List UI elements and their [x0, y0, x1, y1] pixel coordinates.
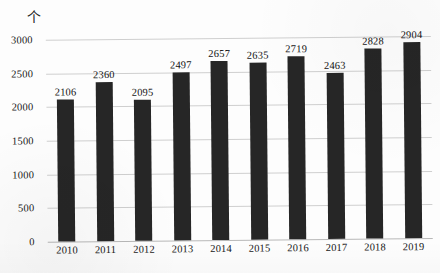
plot-area: 0500100015002000250030002106201023602011… — [46, 36, 433, 242]
x-axis-tick-label: 2010 — [56, 244, 78, 255]
x-axis-tick-label: 2011 — [95, 244, 117, 255]
bar-value-label: 2497 — [170, 59, 192, 70]
bar — [172, 72, 191, 240]
bar-group: 28282018 — [354, 36, 394, 238]
bar-group: 20952012 — [123, 39, 163, 241]
bar — [249, 62, 268, 240]
bar-value-label: 2828 — [362, 35, 384, 46]
y-axis-tick-label: 0 — [0, 236, 35, 247]
bar — [365, 48, 384, 239]
bar-value-label: 2106 — [55, 87, 77, 98]
x-axis-tick-label: 2013 — [172, 243, 194, 254]
bar-chart: 个 05001000150020002500300021062010236020… — [0, 0, 440, 273]
bar-group: 23602011 — [84, 39, 124, 241]
bar-group: 26572014 — [200, 38, 240, 240]
bar-value-label: 2657 — [208, 48, 230, 59]
x-axis-tick-label: 2019 — [403, 241, 425, 252]
y-axis-tick-label: 3000 — [0, 34, 33, 45]
bar — [95, 82, 114, 241]
bar — [326, 73, 345, 239]
bar — [403, 43, 422, 239]
bar-group: 27192016 — [277, 37, 317, 239]
bar-value-label: 2463 — [324, 60, 346, 71]
y-axis-tick-label: 1500 — [0, 135, 34, 146]
x-axis-tick-label: 2017 — [326, 242, 348, 253]
x-axis-tick-label: 2018 — [364, 241, 386, 252]
bar-group: 24632017 — [315, 37, 355, 239]
bar — [134, 100, 152, 241]
chart-skew-wrapper: 个 05001000150020002500300021062010236020… — [0, 0, 440, 273]
y-axis-tick-label: 2000 — [0, 102, 34, 113]
bar — [57, 100, 75, 242]
x-axis-tick-label: 2012 — [133, 244, 155, 255]
bar-group: 21062010 — [46, 39, 86, 241]
x-axis-tick-label: 2015 — [249, 243, 271, 254]
y-axis-unit-label: 个 — [20, 5, 46, 29]
bar-group: 26352015 — [238, 37, 278, 239]
bar-value-label: 2904 — [401, 30, 423, 41]
bar — [288, 56, 307, 239]
y-axis-tick-label: 1000 — [0, 169, 34, 180]
x-axis-tick-label: 2014 — [210, 243, 232, 254]
bar-value-label: 2360 — [93, 69, 115, 80]
bar-group: 24972013 — [161, 38, 201, 240]
bar-group: 29042019 — [392, 36, 432, 238]
bar-value-label: 2635 — [247, 49, 269, 60]
bar-value-label: 2095 — [132, 87, 154, 98]
bar — [211, 61, 230, 240]
bar-value-label: 2719 — [285, 43, 307, 54]
x-axis-tick-label: 2016 — [287, 242, 309, 253]
y-axis-tick-label: 2500 — [0, 68, 33, 79]
y-axis-tick-label: 500 — [0, 203, 34, 214]
